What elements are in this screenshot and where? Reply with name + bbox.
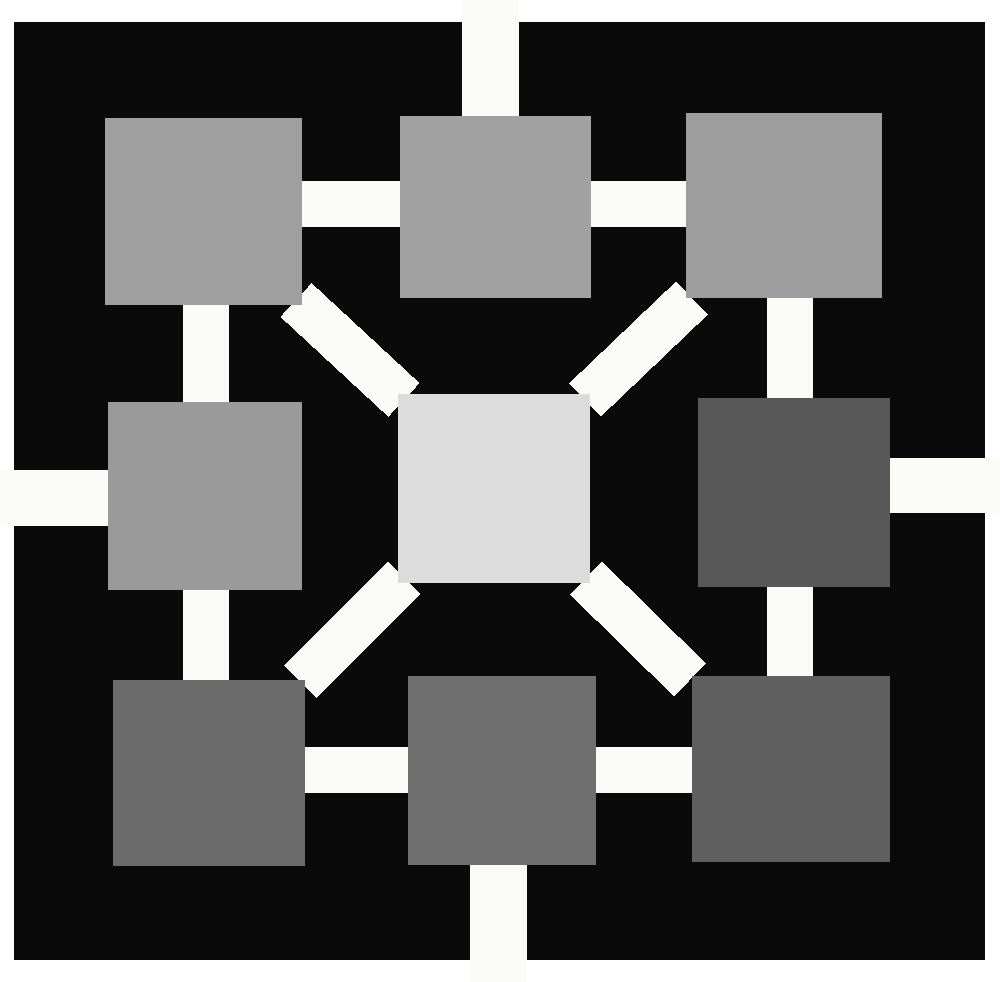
node-n-top-center[interactable] — [400, 116, 591, 298]
border-connector-s-top — [462, 0, 519, 120]
node-n-bottom-right[interactable] — [692, 676, 890, 862]
node-n-top-right[interactable] — [686, 113, 882, 298]
node-n-center[interactable] — [398, 394, 590, 583]
border-connector-s-right — [885, 458, 1000, 513]
node-graph-canvas — [0, 0, 1000, 982]
border-connector-s-left — [0, 470, 115, 526]
node-n-top-left[interactable] — [105, 118, 302, 305]
node-layer — [105, 113, 890, 866]
node-n-bottom-center[interactable] — [408, 676, 596, 865]
node-n-bottom-left[interactable] — [113, 680, 305, 866]
figure-stage — [0, 0, 1000, 982]
node-n-middle-right[interactable] — [698, 398, 890, 587]
border-connector-s-bottom — [470, 860, 527, 982]
node-n-middle-left[interactable] — [108, 402, 302, 590]
